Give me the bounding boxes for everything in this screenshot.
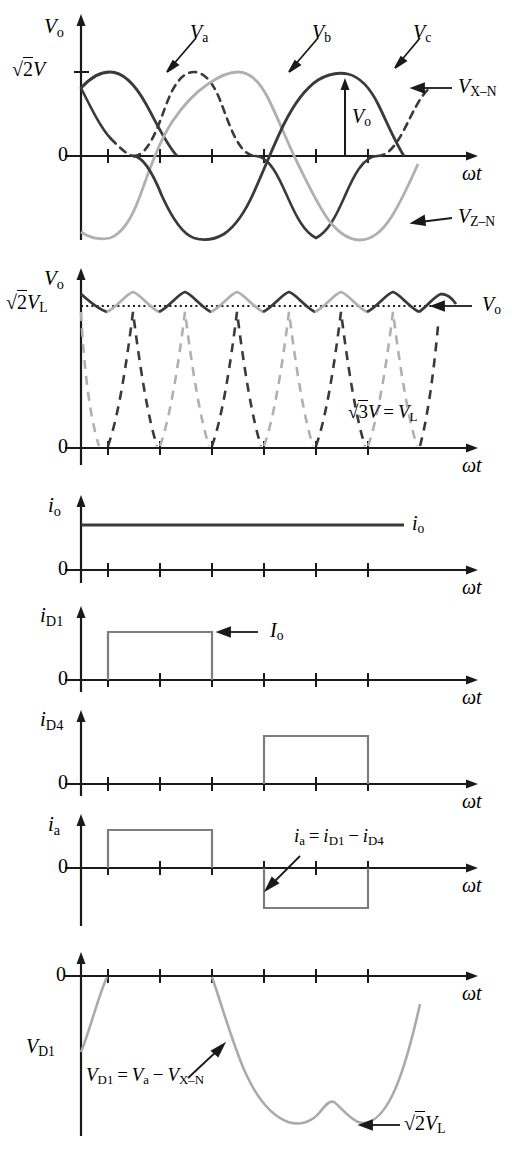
panel6-y-axis-label: ia — [48, 814, 60, 837]
axes — [65, 14, 478, 240]
label-io-trace: io — [412, 513, 424, 536]
panel3-y-axis-label: io — [48, 495, 61, 518]
panel3-time-axis-label: ωt — [462, 577, 482, 597]
rectified-voltage-plot — [0, 250, 512, 485]
ia-callout-arrow — [266, 856, 300, 890]
panel-rectified-voltage: Vo √2VL 0 ωt Vo √3V = VL — [0, 250, 512, 485]
panel1-zero-label: 0 — [58, 144, 68, 164]
label-vc: Vc — [413, 22, 431, 45]
callout-arrows — [167, 38, 452, 225]
id1-pulse — [108, 632, 212, 680]
panel7-zero-label: 0 — [56, 964, 66, 984]
label-vo-measure: Vo — [352, 106, 371, 129]
axes — [65, 710, 478, 796]
panel-diode1-voltage: 0 ωt VD1 VD1 = Va − VX–N √2VL — [0, 940, 512, 1155]
axes — [65, 952, 478, 1136]
label-vzn: VZ–N — [458, 206, 495, 229]
label-vd1-peak: √2VL — [404, 1113, 446, 1136]
rectified-skirts — [81, 312, 438, 446]
panel-diode4-current: iD4 0 ωt — [0, 704, 512, 808]
vd1-trace — [81, 977, 420, 1124]
label-va: Va — [190, 22, 208, 45]
panel-phase-voltages: Vo √2V 0 ωt Va Vb Vc VX–N VZ–N Vo — [0, 0, 512, 250]
panel6-time-axis-label: ωt — [462, 875, 482, 895]
panel2-zero-label: 0 — [58, 436, 68, 456]
panel2-time-axis-label: ωt — [462, 455, 482, 475]
panel4-zero-label: 0 — [58, 668, 68, 688]
panel5-y-axis-label: iD4 — [40, 709, 63, 732]
panel2-peak-label: √2VL — [6, 292, 48, 315]
label-vxn: VX–N — [458, 76, 497, 99]
panel4-y-axis-label: iD1 — [40, 605, 63, 628]
vo-callout-arrow — [432, 302, 472, 311]
panel1-peak-label: √2V — [12, 59, 45, 79]
id4-pulse — [264, 736, 368, 784]
line-current-plot — [0, 808, 512, 940]
panel3-zero-label: 0 — [58, 558, 68, 578]
label-vd1-equation: VD1 = Va − VX–N — [86, 1065, 204, 1087]
label-vo-mean: Vo — [482, 294, 501, 317]
panel7-time-axis-label: ωt — [462, 983, 482, 1003]
peak-callout-arrow — [360, 1121, 400, 1130]
axes — [65, 268, 478, 465]
io-callout-arrow — [218, 628, 258, 637]
diode1-current-plot — [0, 600, 512, 704]
panel7-y-axis-label: VD1 — [26, 1036, 55, 1059]
panel6-zero-label: 0 — [58, 856, 68, 876]
rectified-crests — [81, 292, 456, 312]
label-ia-equation: ia = iD1 − iD4 — [294, 826, 384, 848]
phase-voltage-plot — [0, 0, 512, 250]
axes — [65, 495, 478, 583]
diode4-current-plot — [0, 704, 512, 808]
panel-diode1-current: iD1 0 ωt Io — [0, 600, 512, 704]
panel2-y-axis-label: Vo — [44, 268, 64, 291]
panel5-zero-label: 0 — [58, 772, 68, 792]
panel1-time-axis-label: ωt — [462, 163, 482, 183]
panel-output-current: io 0 ωt io — [0, 485, 512, 600]
output-current-plot — [0, 485, 512, 600]
label-vb: Vb — [312, 22, 331, 45]
panel1-y-axis-label: Vo — [44, 16, 64, 39]
label-io-callout: Io — [270, 620, 283, 643]
label-line-voltage-relation: √3V = VL — [348, 402, 417, 424]
vo-measure-arrow — [341, 78, 350, 156]
panel-line-current: ia 0 ωt ia = iD1 − iD4 — [0, 808, 512, 940]
